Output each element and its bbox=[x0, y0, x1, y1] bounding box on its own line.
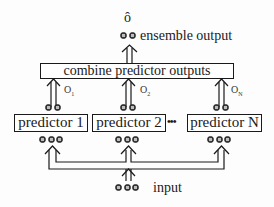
predictor-2-output-label: O2 bbox=[140, 84, 150, 97]
node-icon bbox=[222, 104, 229, 111]
node-icon bbox=[39, 136, 46, 143]
predictor-n-label: predictor N bbox=[190, 114, 259, 130]
combine-label: combine predictor outputs bbox=[64, 63, 211, 78]
node-icon bbox=[216, 136, 223, 143]
ensemble-output-symbol: ô bbox=[124, 10, 131, 26]
node-icon bbox=[129, 32, 136, 39]
node-icon bbox=[124, 184, 131, 191]
predictor-n-input-nodes bbox=[207, 136, 231, 143]
node-icon bbox=[45, 104, 52, 111]
predictor-2-input-nodes bbox=[115, 136, 139, 143]
node-icon bbox=[132, 136, 139, 143]
predictor-1-box: predictor 1 bbox=[14, 114, 88, 132]
predictor-2-output-nodes bbox=[120, 104, 136, 111]
predictor-n-output-label: ON bbox=[231, 84, 243, 97]
ensemble-diagram: ô ensemble output combine predictor outp… bbox=[0, 0, 274, 207]
node-icon bbox=[213, 104, 220, 111]
node-icon bbox=[115, 136, 122, 143]
output-subscript: N bbox=[238, 91, 242, 97]
predictor-2-label: predictor 2 bbox=[96, 114, 161, 130]
ensemble-output-label: ensemble output bbox=[140, 28, 232, 44]
node-icon bbox=[132, 184, 139, 191]
node-icon bbox=[207, 136, 214, 143]
node-icon bbox=[120, 32, 127, 39]
combine-predictor-outputs-box: combine predictor outputs bbox=[40, 63, 234, 79]
input-label: input bbox=[153, 180, 182, 196]
ensemble-output-nodes bbox=[120, 32, 136, 39]
output-subscript: 2 bbox=[147, 91, 150, 97]
node-icon bbox=[48, 136, 55, 143]
input-nodes bbox=[115, 184, 139, 191]
output-subscript: 1 bbox=[71, 91, 74, 97]
node-icon bbox=[224, 136, 231, 143]
node-icon bbox=[124, 136, 131, 143]
predictor-1-output-nodes bbox=[45, 104, 61, 111]
node-icon bbox=[115, 184, 122, 191]
node-icon bbox=[120, 104, 127, 111]
node-icon bbox=[54, 104, 61, 111]
more-predictors-ellipsis: ••• bbox=[167, 115, 176, 127]
predictor-1-label: predictor 1 bbox=[18, 114, 83, 130]
predictor-1-output-label: O1 bbox=[64, 84, 74, 97]
node-icon bbox=[129, 104, 136, 111]
node-icon bbox=[56, 136, 63, 143]
connector-arrows bbox=[0, 0, 274, 207]
predictor-1-input-nodes bbox=[39, 136, 63, 143]
predictor-2-box: predictor 2 bbox=[92, 114, 166, 132]
predictor-n-box: predictor N bbox=[187, 114, 262, 132]
predictor-n-output-nodes bbox=[213, 104, 229, 111]
